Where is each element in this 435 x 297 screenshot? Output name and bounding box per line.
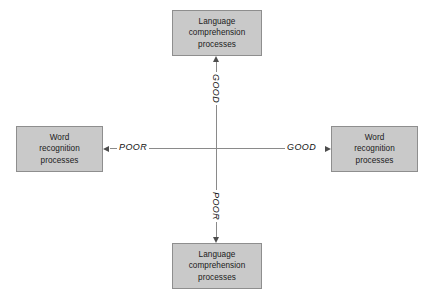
axis-label-vertical-bottom: POOR (210, 190, 222, 222)
node-right-line-3: processes (356, 155, 394, 166)
node-top-line-1: Language (199, 16, 236, 27)
node-top-line-2: comprehension (189, 27, 246, 38)
node-top-line-3: processes (198, 39, 236, 50)
node-bottom-line-2: comprehension (189, 260, 246, 271)
arrow-left-icon (103, 146, 109, 152)
node-left-line-1: Word (50, 132, 70, 143)
axis-label-horizontal-right: GOOD (285, 142, 318, 152)
node-right-line-1: Word (365, 132, 385, 143)
node-bottom-line-3: processes (198, 272, 236, 283)
node-right-word-recognition: Word recognition processes (331, 126, 418, 172)
node-right-line-2: recognition (354, 143, 395, 154)
node-top-language-comprehension: Language comprehension processes (172, 10, 262, 56)
node-left-word-recognition: Word recognition processes (16, 126, 103, 172)
arrow-up-icon (213, 56, 219, 62)
axis-label-horizontal-left: POOR (117, 142, 149, 152)
diagram-canvas: Language comprehension processes Languag… (0, 0, 435, 297)
axis-label-vertical-top: GOOD (210, 72, 222, 105)
node-bottom-line-1: Language (199, 249, 236, 260)
node-left-line-3: processes (41, 155, 79, 166)
node-bottom-language-comprehension: Language comprehension processes (172, 243, 262, 289)
node-left-line-2: recognition (39, 143, 80, 154)
